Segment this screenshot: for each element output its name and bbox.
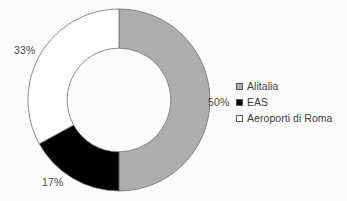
legend-swatch-icon-alitalia bbox=[236, 83, 243, 90]
legend-label-aeroporti-di-roma: Aeroporti di Roma bbox=[247, 113, 332, 124]
legend-label-eas: EAS bbox=[247, 97, 268, 108]
slice-label-alitalia: 50% bbox=[208, 97, 229, 108]
legend-swatch-icon-aeroporti-di-roma bbox=[236, 115, 243, 122]
donut-chart-figure: 33% 50% 17% Alitalia EAS Aeroporti di Ro… bbox=[0, 0, 347, 201]
legend-swatch-icon-eas bbox=[236, 99, 243, 106]
legend-label-alitalia: Alitalia bbox=[247, 81, 278, 92]
donut-slice bbox=[119, 9, 210, 191]
legend-item-alitalia: Alitalia bbox=[236, 80, 332, 93]
donut-slices bbox=[28, 9, 210, 191]
legend-item-aeroporti-di-roma: Aeroporti di Roma bbox=[236, 112, 332, 125]
legend-item-eas: EAS bbox=[236, 96, 332, 109]
slice-label-aeroporti-di-roma: 33% bbox=[14, 45, 35, 56]
chart-legend: Alitalia EAS Aeroporti di Roma bbox=[236, 80, 332, 125]
donut-slice bbox=[28, 9, 119, 144]
slice-label-eas: 17% bbox=[42, 177, 63, 188]
